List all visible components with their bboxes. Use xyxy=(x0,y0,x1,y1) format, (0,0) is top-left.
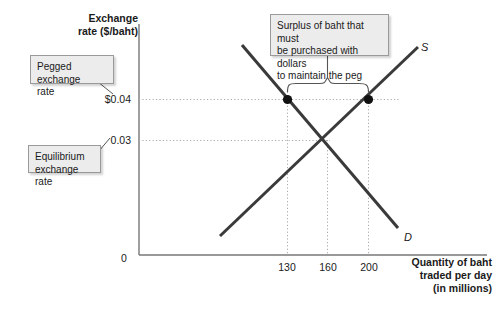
demand-curve-label: D xyxy=(404,231,412,243)
x-tick-label-130: 130 xyxy=(270,261,304,273)
marker-demand-at-peg xyxy=(283,95,292,104)
marker-supply-at-peg xyxy=(364,95,373,104)
y-axis-title: Exchange rate ($/baht) xyxy=(40,12,138,38)
surplus-callout: Surplus of baht that must be purchased w… xyxy=(270,14,389,56)
chart-figure: Exchange rate ($/baht) Quantity of baht … xyxy=(0,0,495,316)
x-tick-label-200: 200 xyxy=(352,261,386,273)
pegged-exchange-rate-callout: Pegged exchange rate xyxy=(30,55,114,84)
equilibrium-exchange-rate-callout: Equilibrium exchange rate xyxy=(28,145,101,173)
supply-curve-label: S xyxy=(421,41,428,53)
x-tick-label-160: 160 xyxy=(311,261,345,273)
x-axis-title: Quantity of baht traded per day (in mill… xyxy=(404,256,492,295)
y-tick-label-004: $0.04 xyxy=(71,93,131,105)
origin-label: 0 xyxy=(121,252,127,264)
